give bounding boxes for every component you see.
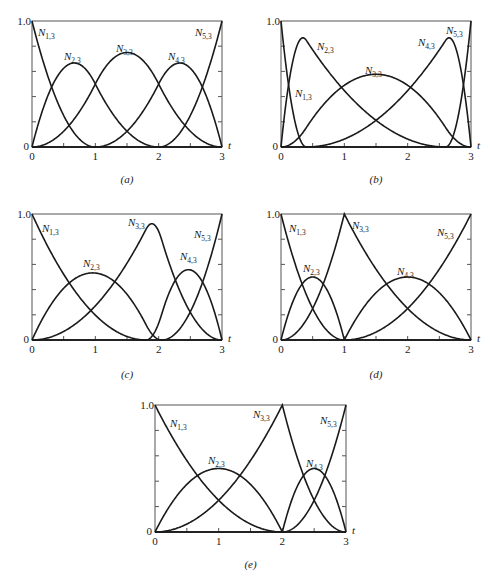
x-tick-label: 0 xyxy=(278,150,284,162)
x-axis-label: t xyxy=(477,332,481,344)
y-tick-label: 0 xyxy=(273,140,279,152)
chart-e: 012301.0tN1,3N2,3N3,3N4,3N5,3(e) xyxy=(140,399,356,571)
basis-curve-n5 xyxy=(281,21,471,147)
series-label: N1,3 xyxy=(294,87,312,102)
series-label: N4,3 xyxy=(417,36,435,51)
y-tick-label: 0 xyxy=(24,333,30,345)
series-label: N5,3 xyxy=(436,226,454,241)
series-label: N2,3 xyxy=(63,50,81,65)
series-label: N5,3 xyxy=(319,414,337,429)
series-label: N3,3 xyxy=(252,408,270,423)
x-axis-label: t xyxy=(228,332,232,344)
series-label: N5,3 xyxy=(193,228,211,243)
series-label: N1,3 xyxy=(169,417,187,432)
plot-frame xyxy=(32,21,222,147)
y-tick-label: 1.0 xyxy=(140,399,154,411)
series-label: N2,3 xyxy=(82,257,100,272)
series-label: N1,3 xyxy=(37,26,55,41)
chart-a: 012301.0tN1,3N2,3N3,3N4,3N5,3(a) xyxy=(17,15,232,186)
x-tick-label: 3 xyxy=(468,150,474,162)
basis-curve-n5 xyxy=(32,21,222,147)
series-label: N3,3 xyxy=(364,64,382,79)
y-tick-label: 1.0 xyxy=(266,208,280,220)
y-tick-label: 0 xyxy=(273,333,279,345)
figure-caption: (a) xyxy=(121,173,134,186)
series-label: N3,3 xyxy=(127,216,145,231)
x-tick-label: 1 xyxy=(93,150,99,162)
basis-curve-n3 xyxy=(281,74,471,147)
y-tick-label: 0 xyxy=(24,140,30,152)
x-tick-label: 3 xyxy=(219,343,225,355)
y-tick-label: 0 xyxy=(147,525,153,537)
basis-curve-n1 xyxy=(32,21,222,147)
x-tick-label: 2 xyxy=(405,343,411,355)
figure-caption: (b) xyxy=(370,173,383,186)
x-tick-label: 0 xyxy=(152,535,158,547)
x-tick-label: 2 xyxy=(156,150,162,162)
basis-curve-n4 xyxy=(281,277,471,340)
basis-curve-n1 xyxy=(281,21,471,147)
y-tick-label: 1.0 xyxy=(266,15,280,27)
series-label: N5,3 xyxy=(194,26,212,41)
x-tick-label: 1 xyxy=(342,343,348,355)
figure-canvas: 012301.0tN1,3N2,3N3,3N4,3N5,3(a)012301.0… xyxy=(0,0,490,581)
x-tick-label: 2 xyxy=(280,535,286,547)
series-label: N4,3 xyxy=(179,250,197,265)
basis-curve-n3 xyxy=(32,224,222,340)
x-axis-label: t xyxy=(477,139,481,151)
series-label: N1,3 xyxy=(41,222,59,237)
series-label: N4,3 xyxy=(167,50,185,65)
chart-d: 012301.0tN1,3N2,3N3,3N4,3N5,3(d) xyxy=(266,208,481,381)
x-tick-label: 1 xyxy=(93,343,99,355)
figure-caption: (e) xyxy=(244,558,257,571)
x-axis-label: t xyxy=(228,139,232,151)
basis-curve-n3 xyxy=(32,53,222,148)
x-tick-label: 3 xyxy=(219,150,225,162)
x-tick-label: 2 xyxy=(156,343,162,355)
x-tick-label: 0 xyxy=(29,343,35,355)
series-label: N2,3 xyxy=(207,454,225,469)
plot-frame xyxy=(281,21,471,147)
series-label: N1,3 xyxy=(288,222,306,237)
series-label: N4,3 xyxy=(305,457,323,472)
basis-curve-n4 xyxy=(155,469,346,533)
y-tick-label: 1.0 xyxy=(17,208,31,220)
x-tick-label: 1 xyxy=(342,150,348,162)
y-tick-label: 1.0 xyxy=(17,15,31,27)
figure-caption: (d) xyxy=(370,368,383,381)
series-label: N5,3 xyxy=(445,24,463,39)
figure-caption: (c) xyxy=(121,368,134,381)
x-tick-label: 2 xyxy=(405,150,411,162)
series-label: N2,3 xyxy=(302,262,320,277)
x-tick-label: 3 xyxy=(343,535,349,547)
basis-curve-n2 xyxy=(155,469,346,533)
x-tick-label: 3 xyxy=(468,343,474,355)
x-tick-label: 0 xyxy=(29,150,35,162)
series-label: N2,3 xyxy=(316,40,334,55)
x-tick-label: 1 xyxy=(216,535,222,547)
x-tick-label: 0 xyxy=(278,343,284,355)
chart-b: 012301.0tN1,3N2,3N3,3N4,3N5,3(b) xyxy=(266,15,481,186)
basis-curve-n2 xyxy=(281,277,471,340)
chart-c: 012301.0tN1,3N2,3N3,3N4,3N5,3(c) xyxy=(17,208,232,381)
x-axis-label: t xyxy=(352,524,356,536)
